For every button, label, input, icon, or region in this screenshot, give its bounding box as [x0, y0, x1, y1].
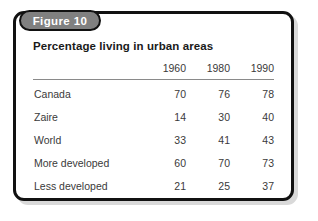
cell-less-developed-1980: 25: [186, 175, 230, 198]
table-header-row: 1960 1980 1990: [33, 62, 274, 80]
cell-zaire-1960: 14: [142, 106, 186, 129]
urban-population-table: 1960 1980 1990 Canada 70 76 78 Zaire 14 …: [33, 62, 274, 198]
table-row: Less developed 21 25 37: [33, 175, 274, 198]
table-title: Percentage living in urban areas: [33, 40, 274, 52]
row-label-more-developed: More developed: [33, 152, 142, 175]
table-row: Zaire 14 30 40: [33, 106, 274, 129]
cell-canada-1980: 76: [186, 80, 230, 106]
column-header-1980: 1980: [186, 62, 230, 80]
row-label-canada: Canada: [33, 80, 142, 106]
column-header-label: [33, 62, 142, 80]
row-label-zaire: Zaire: [33, 106, 142, 129]
cell-less-developed-1960: 21: [142, 175, 186, 198]
column-header-1990: 1990: [230, 62, 274, 80]
column-header-1960: 1960: [142, 62, 186, 80]
cell-canada-1960: 70: [142, 80, 186, 106]
cell-more-developed-1980: 70: [186, 152, 230, 175]
cell-zaire-1990: 40: [230, 106, 274, 129]
row-label-less-developed: Less developed: [33, 175, 142, 198]
row-label-world: World: [33, 129, 142, 152]
cell-more-developed-1960: 60: [142, 152, 186, 175]
table-row: Canada 70 76 78: [33, 80, 274, 106]
table-body: Canada 70 76 78 Zaire 14 30 40 World 33 …: [33, 80, 274, 198]
cell-world-1960: 33: [142, 129, 186, 152]
figure-card-body: Percentage living in urban areas 1960 19…: [16, 14, 291, 198]
cell-zaire-1980: 30: [186, 106, 230, 129]
figure-number-tab: Figure 10: [19, 10, 101, 31]
table-head: 1960 1980 1990: [33, 62, 274, 80]
cell-canada-1990: 78: [230, 80, 274, 106]
cell-world-1990: 43: [230, 129, 274, 152]
table-row: More developed 60 70 73: [33, 152, 274, 175]
table-row: World 33 41 43: [33, 129, 274, 152]
cell-less-developed-1990: 37: [230, 175, 274, 198]
cell-more-developed-1990: 73: [230, 152, 274, 175]
figure-card: Percentage living in urban areas 1960 19…: [13, 11, 294, 201]
cell-world-1980: 41: [186, 129, 230, 152]
